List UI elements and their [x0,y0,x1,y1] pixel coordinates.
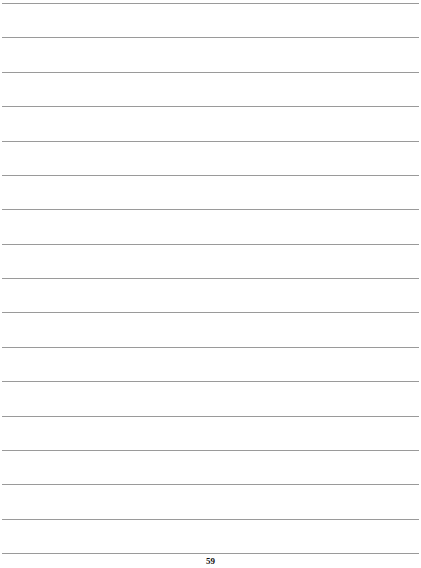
ruled-line [2,553,419,554]
ruled-line [2,484,419,485]
ruled-line [2,347,419,348]
ruled-line [2,72,419,73]
ruled-line [2,37,419,38]
ruled-line [2,278,419,279]
ruled-line [2,519,419,520]
lined-page: 59 [0,0,421,568]
ruled-line [2,106,419,107]
ruled-line [2,312,419,313]
ruled-line [2,141,419,142]
ruled-line [2,416,419,417]
ruled-line [2,450,419,451]
page-number: 59 [0,556,421,566]
ruled-line [2,381,419,382]
ruled-line [2,3,419,4]
ruled-line [2,244,419,245]
ruled-line [2,209,419,210]
ruled-line [2,175,419,176]
